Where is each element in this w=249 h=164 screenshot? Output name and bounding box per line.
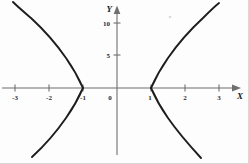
y-axis-arrowhead: [114, 6, 121, 15]
x-tick-label-2: 2: [183, 94, 187, 102]
x-tick-label-0: 0: [108, 94, 112, 102]
x-tick-label-1: 1: [148, 94, 152, 102]
x-axis-label: X: [236, 91, 244, 101]
scan-speck: [169, 16, 172, 19]
coordinate-plot: -3 -2 -1 0 1 2 3 10 5 Y X: [0, 0, 249, 164]
x-tick-label--3: -3: [12, 94, 18, 102]
y-tick-label-5: 5: [107, 52, 111, 60]
y-axis-label: Y: [107, 4, 114, 14]
y-axis: [114, 6, 121, 156]
curve-group: [13, 2, 219, 158]
curve-lower-left-branch: [32, 88, 83, 157]
chart-figure: -3 -2 -1 0 1 2 3 10 5 Y X: [0, 0, 249, 164]
curve-upper-left-branch: [13, 2, 83, 88]
x-tick-label-3: 3: [217, 94, 221, 102]
x-axis: [2, 85, 241, 92]
y-tick-label-10: 10: [103, 20, 111, 28]
x-tick-label--2: -2: [46, 94, 52, 102]
curve-upper-right-branch: [151, 3, 219, 88]
x-tick-label--1: -1: [80, 94, 86, 102]
curve-lower-right-branch: [151, 88, 201, 158]
